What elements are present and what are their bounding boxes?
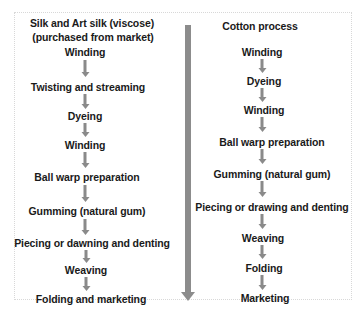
left-step-2: Twisting and streaming [31, 81, 145, 93]
left-step-3: Dyeing [68, 110, 102, 122]
down-arrow-icon [261, 245, 264, 255]
down-arrow-icon [261, 214, 264, 225]
down-arrow-icon [84, 94, 87, 105]
down-arrow-icon [261, 59, 264, 69]
left-step-5: Ball warp preparation [34, 171, 139, 183]
right-step-4: Ball warp preparation [219, 136, 324, 148]
right-step-8: Folding [245, 262, 282, 274]
down-arrow-icon [84, 123, 87, 133]
down-arrow-icon [84, 152, 87, 164]
right-step-7: Weaving [242, 232, 284, 244]
left-step-4: Winding [65, 139, 106, 151]
right-step-6: Piecing or drawing and denting [195, 201, 348, 213]
left-step-9: Folding and marketing [36, 293, 147, 305]
left-title-line1: Silk and Art silk (viscose) [30, 17, 154, 29]
down-arrow-icon [261, 117, 264, 128]
down-arrow-icon [185, 25, 191, 293]
left-step-8: Weaving [65, 264, 107, 276]
left-step-1: Winding [65, 46, 106, 58]
right-step-1: Winding [242, 46, 283, 58]
right-step-3: Winding [244, 104, 285, 116]
left-title-line2: (purchased from market) [32, 31, 153, 43]
down-arrow-icon [261, 275, 264, 286]
down-arrow-icon [84, 60, 87, 73]
right-step-5: Gumming (natural gum) [214, 168, 331, 180]
down-arrow-icon [84, 219, 87, 231]
down-arrow-icon [261, 88, 264, 98]
down-arrow-icon [84, 185, 87, 198]
right-title: Cotton process [222, 20, 298, 32]
left-step-6: Gumming (natural gum) [29, 205, 146, 217]
right-step-9: Marketing [241, 292, 290, 304]
right-step-2: Dyeing [247, 75, 281, 87]
down-arrow-icon [261, 181, 264, 193]
down-arrow-icon [261, 149, 264, 160]
down-arrow-icon [85, 277, 88, 287]
left-step-7: Piecing or dawning and denting [14, 237, 170, 249]
down-arrow-icon [85, 250, 88, 259]
